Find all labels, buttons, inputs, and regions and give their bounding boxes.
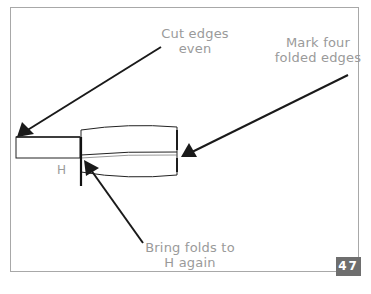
arrow-cut-edges [17, 47, 161, 137]
label-cut-edges-text: Cut edges even [150, 26, 240, 56]
label-bring-folds-text: Bring folds to H again [140, 240, 240, 270]
h-marker-label: H [57, 163, 66, 177]
left-strip [16, 137, 80, 158]
label-cut-edges: Cut edges even [150, 26, 240, 56]
label-mark-edges-text: Mark four folded edges [268, 35, 368, 65]
page-number-badge: 47 [336, 257, 361, 276]
arrow-mark-edges [181, 75, 348, 157]
label-bring-folds: Bring folds to H again [140, 240, 240, 270]
label-mark-edges: Mark four folded edges [268, 35, 368, 65]
